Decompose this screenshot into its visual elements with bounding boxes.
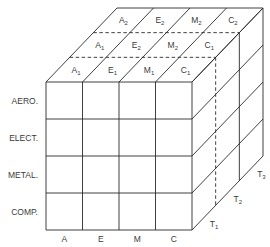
row-label: COMP. xyxy=(11,207,38,217)
depth-label: T2 xyxy=(234,194,243,205)
right-depth-line xyxy=(192,156,263,230)
cube-matrix-drawing: A1E1M1C1A1E2M2C1A2E2M2C2AERO.ELECT.METAL… xyxy=(0,0,270,247)
top-cell-label: E2 xyxy=(132,40,142,51)
top-cell-label: E2 xyxy=(155,15,165,26)
top-cell-label: M2 xyxy=(191,15,202,26)
top-cell-label: E1 xyxy=(108,65,118,76)
cube-diagram: A1E1M1C1A1E2M2C1A2E2M2C2AERO.ELECT.METAL… xyxy=(0,0,270,247)
column-label: M xyxy=(134,234,141,244)
row-label: ELECT. xyxy=(9,133,38,143)
right-depth-line xyxy=(192,45,263,119)
top-cell-label: M2 xyxy=(168,40,179,51)
top-cell-label: A2 xyxy=(119,15,129,26)
depth-label: T3 xyxy=(257,169,266,180)
top-cell-label: C1 xyxy=(205,40,215,51)
top-cell-label: A1 xyxy=(72,65,82,76)
top-depth-line xyxy=(46,8,117,82)
right-depth-line xyxy=(192,119,263,193)
top-cell-label: C1 xyxy=(181,65,191,76)
top-cell-label: C2 xyxy=(228,15,238,26)
row-label: METAL. xyxy=(8,170,38,180)
top-cell-label: M1 xyxy=(144,65,155,76)
column-label: C xyxy=(171,234,177,244)
row-label: AERO. xyxy=(12,96,38,106)
right-depth-line xyxy=(192,82,263,156)
column-label: A xyxy=(61,234,67,244)
depth-label: T1 xyxy=(210,219,219,230)
top-cell-label: A1 xyxy=(95,40,105,51)
column-label: E xyxy=(98,234,104,244)
